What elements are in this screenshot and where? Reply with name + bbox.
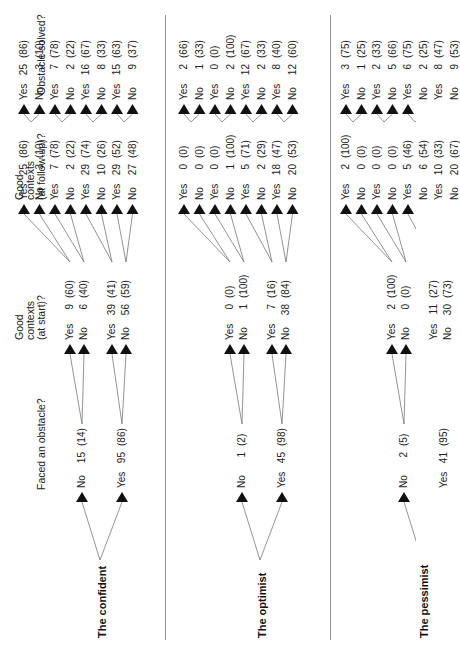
node-percent: (5) — [399, 434, 409, 446]
connector-line — [31, 114, 40, 122]
node-count: 0 — [195, 164, 205, 178]
node-faced: No15(14) — [77, 428, 87, 488]
arrowhead-icon — [238, 344, 250, 354]
node-followup: No6(54) — [419, 140, 429, 200]
node-percent: (95) — [439, 428, 449, 446]
node-followup: No10(26) — [97, 140, 107, 200]
node-count: 15 — [77, 452, 87, 466]
node-followup: Yes29(74) — [81, 140, 91, 200]
node-label: Yes — [272, 78, 282, 100]
node-percent: (22) — [66, 140, 76, 158]
connector-line — [230, 354, 242, 424]
node-percent: (22) — [66, 40, 76, 58]
node-followup: No2(22) — [66, 140, 76, 200]
arrowhead-icon — [276, 492, 288, 502]
connector-line — [82, 502, 100, 560]
node-followup: Yes0(0) — [372, 146, 382, 200]
arrowhead-icon — [194, 104, 206, 114]
arrowhead-icon — [111, 204, 123, 214]
connector-line — [282, 354, 286, 424]
connector-line — [272, 354, 282, 424]
connector-line — [86, 114, 93, 122]
node-count: 0 — [372, 164, 382, 178]
arrowhead-icon — [34, 204, 46, 214]
node-label: Yes — [210, 178, 220, 200]
node-start: Yes7(16) — [267, 280, 277, 340]
node-label: No — [419, 178, 429, 200]
arrowhead-icon — [402, 104, 414, 114]
node-label: Yes — [372, 78, 382, 100]
node-label: No — [450, 78, 460, 100]
node-label: Yes — [50, 178, 60, 200]
arrowhead-icon — [78, 344, 90, 354]
node-label: Yes — [179, 78, 189, 100]
node-percent: (37) — [128, 40, 138, 58]
arrowhead-icon — [386, 344, 398, 354]
node-count: 2 — [399, 452, 409, 466]
node-followup: Yes18(47) — [272, 140, 282, 200]
node-percent: (67) — [81, 40, 91, 58]
connector-line — [215, 114, 222, 122]
node-count: 20 — [450, 164, 460, 178]
connector-line — [100, 502, 122, 560]
arrowhead-icon — [127, 204, 139, 214]
arrowhead-icon — [240, 104, 252, 114]
node-solved: No2(22) — [66, 40, 76, 100]
node-percent: (100) — [387, 275, 397, 298]
node-label: Yes — [65, 318, 75, 340]
node-percent: (33) — [97, 40, 107, 58]
node-count: 2 — [66, 64, 76, 78]
connector-line — [215, 214, 244, 262]
node-percent: (59) — [121, 280, 131, 298]
arrowhead-icon — [76, 492, 88, 502]
connector-line — [246, 114, 253, 122]
connector-line — [246, 214, 272, 262]
header-line: (at start)? — [36, 295, 47, 340]
node-count: 9 — [450, 64, 460, 78]
arrowhead-icon — [18, 204, 30, 214]
arrowhead-icon — [18, 104, 30, 114]
node-followup: No27(48) — [128, 140, 138, 200]
node-label: Yes — [117, 466, 127, 488]
node-percent: (25) — [419, 40, 429, 58]
node-followup: Yes2(100) — [341, 135, 351, 200]
node-label: No — [357, 78, 367, 100]
group-label: The confident — [96, 566, 108, 638]
node-label: Yes — [179, 178, 189, 200]
arrowhead-icon — [194, 204, 206, 214]
node-start: No30(73) — [443, 280, 453, 340]
node-count: 2 — [419, 64, 429, 78]
connector-line — [122, 354, 126, 424]
node-solved: Yes2(66) — [179, 40, 189, 100]
connector-line — [284, 114, 293, 122]
node-percent: (98) — [277, 428, 287, 446]
node-solved: Yes25(86) — [19, 40, 29, 100]
group-label: The pessimist — [418, 565, 430, 638]
node-count: 7 — [267, 304, 277, 318]
node-count: 1 — [357, 64, 367, 78]
node-count: 1 — [226, 164, 236, 178]
connector-line — [102, 214, 113, 262]
connector-line — [377, 114, 384, 122]
connector-line — [24, 114, 31, 122]
header-faced-obstacle: Faced an obstacle? — [36, 398, 47, 490]
node-count: 0 — [210, 164, 220, 178]
node-percent: (0) — [401, 286, 411, 298]
node-count: 0 — [388, 164, 398, 178]
connector-line — [242, 354, 244, 424]
node-solved: Yes16(67) — [81, 40, 91, 100]
node-solved: Yes6(75) — [403, 40, 413, 100]
connector-line — [408, 214, 416, 262]
node-percent: (63) — [112, 40, 122, 58]
node-count: 3 — [35, 64, 45, 78]
node-label: Yes — [341, 78, 351, 100]
node-label: Yes — [267, 318, 277, 340]
node-label: No — [443, 318, 453, 340]
node-label: Yes — [429, 318, 439, 340]
node-percent: (74) — [81, 140, 91, 158]
node-label: No — [97, 78, 107, 100]
connector-line — [384, 114, 393, 122]
node-percent: (25) — [357, 40, 367, 58]
node-followup: No0(0) — [357, 146, 367, 200]
